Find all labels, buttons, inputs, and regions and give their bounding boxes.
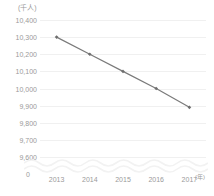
y-axis-zero-label: 0	[26, 171, 30, 178]
y-axis-unit-label: (千人)	[18, 2, 37, 12]
y-axis-tick-label: 9,800	[3, 119, 37, 126]
y-axis-tick-label: 9,700	[3, 136, 37, 143]
y-axis-tick-label: 10,100	[3, 68, 37, 75]
y-axis-tick-labels: 10,40010,30010,20010,10010,0009,9009,800…	[0, 20, 37, 157]
x-axis-tick-labels: 20132014201520162017	[40, 176, 206, 190]
series-line	[40, 20, 206, 157]
axis-break-wave	[24, 156, 208, 174]
y-axis-tick-label: 10,200	[3, 51, 37, 58]
x-axis-tick-label: 2016	[148, 176, 164, 183]
y-axis-tick-label: 9,900	[3, 102, 37, 109]
x-axis-unit-label: (年)	[195, 172, 205, 181]
y-axis-tick-label: 10,000	[3, 85, 37, 92]
y-axis-tick-label: 10,400	[3, 17, 37, 24]
plot-area	[40, 20, 206, 157]
line-chart: (千人) 10,40010,30010,20010,10010,0009,900…	[0, 0, 214, 196]
x-axis-tick-label: 2014	[82, 176, 98, 183]
x-axis-tick-label: 2013	[49, 176, 65, 183]
x-axis-tick-label: 2015	[115, 176, 131, 183]
y-axis-tick-label: 10,300	[3, 34, 37, 41]
